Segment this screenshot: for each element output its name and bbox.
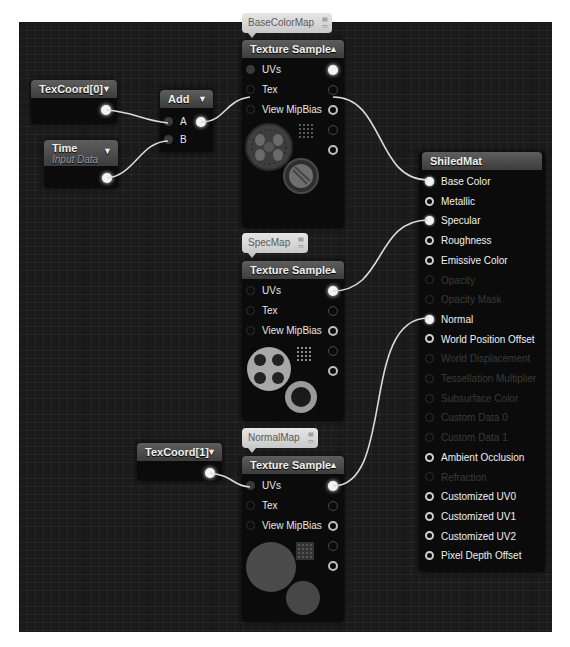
comment-pin-icon[interactable]: ▤▭ [322, 16, 328, 30]
output-g-pin[interactable] [328, 105, 338, 115]
input-pin-icon[interactable] [425, 334, 434, 343]
output-a-pin[interactable] [328, 561, 338, 571]
output-g-pin[interactable] [328, 521, 338, 531]
texture-sample-normal-node[interactable]: Texture Sample ▲ UVs Tex View MipBias [242, 456, 344, 622]
output-rgb-pin[interactable] [328, 286, 338, 296]
add-input-a[interactable]: A [164, 113, 187, 131]
chevron-up-icon[interactable]: ▲ [329, 456, 338, 474]
material-input-subsurface-color[interactable]: Subsurface Color [425, 389, 518, 409]
input-pin-icon[interactable] [246, 65, 255, 74]
input-pin-icon[interactable] [425, 413, 434, 422]
material-input-refraction[interactable]: Refraction [425, 468, 487, 488]
input-view-mipbias[interactable]: View MipBias [246, 101, 322, 119]
input-pin-icon[interactable] [425, 236, 434, 245]
input-pin-icon[interactable] [246, 326, 255, 335]
input-pin-icon[interactable] [164, 135, 173, 144]
material-input-opacity-mask[interactable]: Opacity Mask [425, 290, 502, 310]
material-input-opacity[interactable]: Opacity [425, 271, 475, 291]
input-uvs[interactable]: UVs [246, 282, 281, 300]
texture-sample-header[interactable]: Texture Sample ▲ [242, 40, 344, 58]
material-input-custom-data-0[interactable]: Custom Data 0 [425, 408, 508, 428]
chevron-up-icon[interactable]: ▲ [329, 261, 338, 279]
input-pin-icon[interactable] [246, 481, 255, 490]
material-input-normal[interactable]: Normal [425, 310, 473, 330]
output-a-pin[interactable] [328, 145, 338, 155]
input-uvs[interactable]: UVs [246, 61, 281, 79]
material-input-world-position-offset[interactable]: World Position Offset [425, 330, 535, 350]
add-node[interactable]: Add ▼ A B [160, 90, 213, 152]
output-g-pin[interactable] [328, 326, 338, 336]
chevron-up-icon[interactable]: ▲ [329, 40, 338, 58]
material-input-world-displacement[interactable]: World Displacement [425, 349, 530, 369]
input-pin-icon[interactable] [425, 433, 434, 442]
comment-pin-icon[interactable]: ▤▭ [308, 431, 314, 445]
comment-bubble-normalmap[interactable]: NormalMap ▤▭ [242, 428, 318, 448]
output-r-pin[interactable] [328, 501, 338, 511]
material-input-customized-uv2[interactable]: Customized UV2 [425, 527, 516, 547]
material-input-specular[interactable]: Specular [425, 211, 480, 231]
input-pin-icon[interactable] [425, 512, 434, 521]
material-input-metallic[interactable]: Metallic [425, 192, 475, 212]
texcoord0-output-pin[interactable] [101, 105, 111, 115]
input-pin-icon[interactable] [246, 306, 255, 315]
texcoord1-output-pin[interactable] [205, 468, 215, 478]
input-pin-icon[interactable] [425, 275, 434, 284]
material-input-custom-data-1[interactable]: Custom Data 1 [425, 428, 508, 448]
add-input-b[interactable]: B [164, 131, 187, 149]
texcoord0-node[interactable]: TexCoord[0] ▼ [31, 80, 117, 124]
add-output-pin[interactable] [196, 117, 206, 127]
material-input-customized-uv1[interactable]: Customized UV1 [425, 507, 516, 527]
input-pin-icon[interactable] [425, 177, 434, 186]
material-result-node[interactable]: ShiledMat Base ColorMetallicSpecularRoug… [419, 152, 545, 572]
input-pin-icon[interactable] [425, 216, 434, 225]
input-pin-icon[interactable] [246, 521, 255, 530]
texture-sample-header[interactable]: Texture Sample ▲ [242, 456, 344, 474]
input-pin-icon[interactable] [164, 117, 173, 126]
input-pin-icon[interactable] [425, 531, 434, 540]
input-pin-icon[interactable] [425, 256, 434, 265]
comment-bubble-specmap[interactable]: SpecMap ▤▭ [242, 233, 308, 253]
texture-sample-header[interactable]: Texture Sample ▲ [242, 261, 344, 279]
output-r-pin[interactable] [328, 306, 338, 316]
input-tex[interactable]: Tex [246, 302, 278, 320]
texcoord1-node[interactable]: TexCoord[1] ▼ [137, 443, 222, 481]
time-header[interactable]: Time Input Data ▼ [44, 140, 118, 166]
chevron-down-icon[interactable]: ▼ [198, 90, 207, 108]
input-pin-icon[interactable] [425, 295, 434, 304]
chevron-down-icon[interactable]: ▼ [207, 443, 216, 461]
input-pin-icon[interactable] [425, 551, 434, 560]
input-pin-icon[interactable] [425, 394, 434, 403]
input-view-mipbias[interactable]: View MipBias [246, 322, 322, 340]
input-pin-icon[interactable] [425, 315, 434, 324]
output-b-pin[interactable] [328, 541, 338, 551]
input-pin-icon[interactable] [425, 453, 434, 462]
material-input-ambient-occlusion[interactable]: Ambient Occlusion [425, 448, 524, 468]
output-b-pin[interactable] [328, 125, 338, 135]
material-input-emissive-color[interactable]: Emissive Color [425, 251, 508, 271]
texcoord1-header[interactable]: TexCoord[1] ▼ [137, 443, 222, 461]
material-input-roughness[interactable]: Roughness [425, 231, 492, 251]
texture-sample-basecolor-node[interactable]: Texture Sample ▲ UVs Tex View MipBias [242, 40, 344, 228]
input-uvs[interactable]: UVs [246, 477, 281, 495]
time-node[interactable]: Time Input Data ▼ [44, 140, 118, 188]
chevron-down-icon[interactable]: ▼ [102, 80, 111, 98]
output-rgb-pin[interactable] [328, 481, 338, 491]
material-header[interactable]: ShiledMat [422, 152, 542, 170]
chevron-down-icon[interactable]: ▼ [103, 145, 112, 158]
input-pin-icon[interactable] [425, 472, 434, 481]
input-pin-icon[interactable] [425, 197, 434, 206]
input-tex[interactable]: Tex [246, 81, 278, 99]
input-pin-icon[interactable] [246, 286, 255, 295]
output-a-pin[interactable] [328, 366, 338, 376]
texcoord0-header[interactable]: TexCoord[0] ▼ [31, 80, 117, 98]
texture-sample-spec-node[interactable]: Texture Sample ▲ UVs Tex View MipBias [242, 261, 344, 421]
input-view-mipbias[interactable]: View MipBias [246, 517, 322, 535]
add-header[interactable]: Add ▼ [160, 90, 213, 108]
input-pin-icon[interactable] [246, 105, 255, 114]
output-rgb-pin[interactable] [328, 65, 338, 75]
comment-pin-icon[interactable]: ▤▭ [298, 236, 304, 250]
input-pin-icon[interactable] [246, 501, 255, 510]
input-pin-icon[interactable] [246, 85, 255, 94]
output-b-pin[interactable] [328, 346, 338, 356]
input-pin-icon[interactable] [425, 492, 434, 501]
